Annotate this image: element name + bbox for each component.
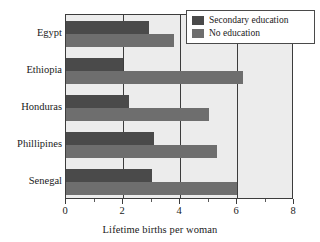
- x-tick-label-6: 6: [233, 205, 238, 217]
- y-axis-label-honduras: Honduras: [0, 101, 62, 112]
- legend-swatch-icon-no-education: [192, 29, 204, 38]
- bar-chart: EgyptEthiopiaHondurasPhillipinesSenegal …: [0, 0, 320, 242]
- legend-item-secondary-education: Secondary education: [192, 14, 310, 27]
- x-tick-major: [122, 199, 123, 204]
- x-tick-major: [65, 199, 66, 204]
- x-tick-minor: [94, 199, 95, 202]
- y-axis-label-senegal: Senegal: [0, 175, 62, 186]
- x-axis-title: Lifetime births per woman: [0, 224, 320, 235]
- x-tick-minor: [265, 199, 266, 202]
- bar-honduras-no-education: [66, 108, 209, 121]
- x-tick-label-4: 4: [176, 205, 181, 217]
- bar-senegal-no-education: [66, 182, 237, 195]
- x-tick-minor: [208, 199, 209, 202]
- gridline: [180, 15, 181, 198]
- legend-label-no-education: No education: [209, 28, 260, 39]
- x-tick-minor: [151, 199, 152, 202]
- y-axis-labels: EgyptEthiopiaHondurasPhillipinesSenegal: [0, 14, 62, 199]
- bar-phillipines-secondary-education: [66, 132, 154, 145]
- x-tick-label-2: 2: [119, 205, 124, 217]
- x-tick-major: [179, 199, 180, 204]
- x-tick-major: [293, 199, 294, 204]
- bar-egypt-no-education: [66, 34, 174, 47]
- x-tick-label-0: 0: [62, 205, 67, 217]
- legend-label-secondary-education: Secondary education: [209, 15, 288, 26]
- y-axis-label-phillipines: Phillipines: [0, 138, 62, 149]
- bar-egypt-secondary-education: [66, 21, 149, 34]
- x-tick-major: [236, 199, 237, 204]
- legend-swatch-icon-secondary-education: [192, 16, 204, 25]
- bar-phillipines-no-education: [66, 145, 217, 158]
- x-axis: 02468: [65, 199, 293, 219]
- bar-honduras-secondary-education: [66, 95, 129, 108]
- bar-ethiopia-no-education: [66, 71, 243, 84]
- bar-ethiopia-secondary-education: [66, 58, 123, 71]
- y-axis-label-egypt: Egypt: [0, 27, 62, 38]
- y-axis-label-ethiopia: Ethiopia: [0, 64, 62, 75]
- bar-senegal-secondary-education: [66, 169, 152, 182]
- x-tick-label-8: 8: [290, 205, 295, 217]
- legend: Secondary education No education: [186, 10, 315, 44]
- legend-item-no-education: No education: [192, 27, 310, 40]
